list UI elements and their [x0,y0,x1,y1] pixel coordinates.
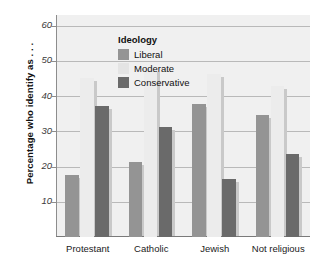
y-tick-label: 40 [30,90,52,101]
bar-not-religious-liberal [256,115,270,237]
legend-swatch-icon [118,63,129,74]
legend: Ideology LiberalModerateConservative [118,34,189,90]
bar-face [207,74,221,237]
y-tick-label: 20 [30,160,52,171]
legend-item-label: Liberal [134,49,163,60]
bar-face [192,104,206,237]
legend-item-label: Conservative [134,77,189,88]
gridline [56,26,310,27]
legend-item-conservative: Conservative [118,76,189,89]
bar-chart: Percentage who identify as . . . 1020304… [0,0,327,271]
legend-item-liberal: Liberal [118,48,189,61]
legend-title: Ideology [118,34,189,45]
bar-not-religious-moderate [271,86,285,238]
y-tick-label: 30 [30,125,52,136]
bar-jewish-conservative [222,179,236,237]
plot-area: Ideology LiberalModerateConservative [56,15,310,237]
bar-jewish-liberal [192,104,206,237]
bar-face [80,78,94,237]
legend-swatch-icon [118,77,129,88]
bar-face [256,115,270,237]
bar-catholic-conservative [159,127,173,237]
bar-catholic-liberal [129,162,143,237]
legend-items: LiberalModerateConservative [118,48,189,89]
bar-jewish-moderate [207,74,221,237]
x-tick-label-not-religious: Not religious [228,243,327,254]
legend-swatch-icon [118,49,129,60]
bar-face [95,106,109,237]
y-tick-label: 50 [30,54,52,65]
bar-protestant-moderate [80,78,94,237]
bar-face [286,154,300,237]
bar-not-religious-conservative [286,154,300,237]
legend-item-moderate: Moderate [118,62,189,75]
bar-catholic-moderate [144,69,158,237]
bar-face [144,69,158,237]
bar-protestant-conservative [95,106,109,237]
bar-protestant-liberal [65,175,79,237]
bar-face [222,179,236,237]
bar-face [65,175,79,237]
bar-face [159,127,173,237]
y-tick-label: 60 [30,19,52,30]
y-axis-line [56,15,57,237]
bar-face [271,86,285,238]
y-tick-label: 10 [30,195,52,206]
legend-item-label: Moderate [134,63,174,74]
bar-face [129,162,143,237]
